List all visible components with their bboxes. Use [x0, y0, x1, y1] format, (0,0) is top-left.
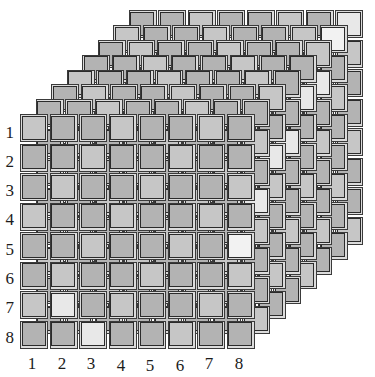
grid-cell [197, 144, 225, 172]
grid-cell [20, 114, 48, 142]
y-tick-1: 1 [0, 124, 14, 141]
grid-cell [197, 203, 225, 231]
x-tick-8: 8 [231, 355, 247, 372]
grid-cell [138, 262, 166, 290]
grid-cell [109, 173, 137, 201]
grid-cell [109, 114, 137, 142]
grid-cell [197, 291, 225, 319]
grid-cell [79, 262, 107, 290]
grid-cell [168, 291, 196, 319]
grid-cell [168, 232, 196, 260]
grid-cell [138, 114, 166, 142]
grid-cell [197, 232, 225, 260]
grid-cell [227, 144, 255, 172]
x-tick-1: 1 [24, 355, 40, 372]
grid-cell [168, 173, 196, 201]
grid-cell [227, 203, 255, 231]
grid-cell [138, 203, 166, 231]
grid-cell [20, 144, 48, 172]
grid-cell [79, 144, 107, 172]
grid-cell [20, 291, 48, 319]
grid-cell [109, 232, 137, 260]
grid-cell [20, 203, 48, 231]
grid-cell [197, 262, 225, 290]
grid-cell [168, 114, 196, 142]
x-tick-4: 4 [113, 357, 129, 374]
y-tick-7: 7 [0, 299, 14, 316]
x-tick-3: 3 [83, 355, 99, 372]
y-tick-6: 6 [0, 270, 14, 287]
y-tick-4: 4 [0, 211, 14, 228]
y-tick-3: 3 [0, 182, 14, 199]
grid-cell [227, 262, 255, 290]
grid-cell [197, 114, 225, 142]
grid-cell [138, 321, 166, 349]
x-tick-5: 5 [142, 357, 158, 374]
grid-cell [168, 144, 196, 172]
grid-cell [109, 321, 137, 349]
grid-cell [168, 321, 196, 349]
grid-cell [50, 203, 78, 231]
x-tick-7: 7 [201, 355, 217, 372]
grid-cell [79, 203, 107, 231]
grid-cell [168, 203, 196, 231]
grid-cell [20, 321, 48, 349]
figure-canvas: 1 2 3 4 5 6 7 8 1 2 3 4 5 6 7 8 [0, 0, 375, 377]
grid-cell [79, 114, 107, 142]
grid-cell [20, 232, 48, 260]
grid-cell [50, 144, 78, 172]
grid-cell [50, 173, 78, 201]
y-tick-2: 2 [0, 153, 14, 170]
grid-cell [168, 262, 196, 290]
grid-cell [227, 291, 255, 319]
grid-cell [79, 173, 107, 201]
x-tick-6: 6 [172, 357, 188, 374]
y-tick-5: 5 [0, 241, 14, 258]
grid-cell [50, 232, 78, 260]
y-tick-8: 8 [0, 329, 14, 346]
grid-cell [20, 173, 48, 201]
grid-cell [50, 114, 78, 142]
grid-cell [79, 321, 107, 349]
grid-cell [138, 291, 166, 319]
x-tick-2: 2 [54, 355, 70, 372]
stacked-grid-visualization [0, 0, 375, 377]
grid-cell [79, 232, 107, 260]
grid-cell [20, 262, 48, 290]
grid-cell [109, 291, 137, 319]
grid-cell [227, 114, 255, 142]
grid-cell [197, 321, 225, 349]
grid-cell [197, 173, 225, 201]
grid-cell [50, 291, 78, 319]
grid-cell [138, 144, 166, 172]
grid-cell [50, 262, 78, 290]
grid-cell [109, 144, 137, 172]
grid-cell [109, 262, 137, 290]
grid-cell [227, 232, 255, 260]
grid-cell [138, 173, 166, 201]
grid-cell [227, 321, 255, 349]
grid-cell [138, 232, 166, 260]
grid-cell [50, 321, 78, 349]
grid-cell [227, 173, 255, 201]
grid-cell [109, 203, 137, 231]
grid-cell [79, 291, 107, 319]
